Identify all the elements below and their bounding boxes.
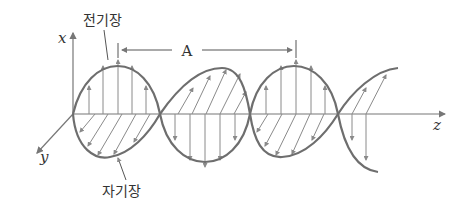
electric-field-label: 전기장 bbox=[83, 12, 122, 28]
em-wave-diagram: A 전기장 자기장 x y z bbox=[0, 0, 466, 208]
magnetic-field-leader bbox=[118, 158, 126, 180]
magnetic-field-curve bbox=[73, 68, 398, 158]
magnetic-field-label: 자기장 bbox=[102, 183, 141, 199]
electric-field-leader bbox=[104, 30, 108, 60]
x-axis-label: x bbox=[58, 29, 67, 47]
axes bbox=[37, 33, 445, 153]
y-axis-label: y bbox=[39, 148, 49, 166]
wavelength-marker bbox=[118, 40, 296, 58]
z-axis-label: z bbox=[432, 116, 441, 134]
wavelength-label: A bbox=[181, 42, 193, 60]
